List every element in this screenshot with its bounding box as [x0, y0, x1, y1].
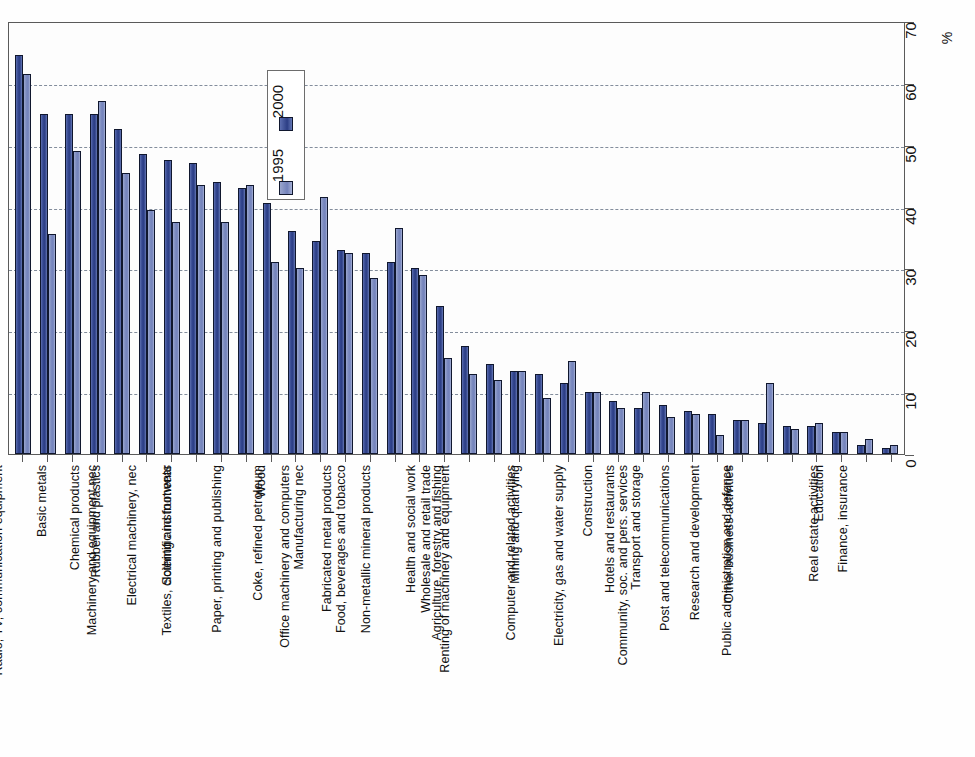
x-tick — [531, 455, 556, 463]
bar-group — [85, 23, 110, 454]
x-axis-category-label: Post and telecommunications — [659, 465, 672, 631]
x-tick — [10, 455, 35, 463]
bar-1995 — [387, 262, 395, 454]
bar-group — [36, 23, 61, 454]
x-label-slot: Electrical machinery, nec — [184, 463, 209, 753]
x-axis-category-label: Construction — [582, 465, 595, 536]
bar-2000 — [494, 380, 502, 454]
x-tick — [630, 455, 655, 463]
plot-area: 20001995 — [8, 22, 905, 455]
bar-group — [209, 23, 234, 454]
bar-group — [605, 23, 630, 454]
bar-2000 — [593, 392, 601, 454]
bar-group — [754, 23, 779, 454]
x-axis-category-label: Coke, refined petroleum — [252, 465, 265, 601]
bar-2000 — [518, 371, 526, 455]
bar-group — [407, 23, 432, 454]
bar-1995 — [832, 432, 840, 454]
x-axis-category-label: Public administration and defence — [721, 465, 734, 656]
bar-group — [234, 23, 259, 454]
bar-2000 — [98, 101, 106, 454]
bar-1995 — [90, 114, 98, 454]
x-tick — [581, 455, 606, 463]
bar-2000 — [296, 268, 304, 454]
bar-2000 — [667, 417, 675, 454]
bar-2000 — [23, 74, 31, 454]
x-axis-category-label: Textiles, clothing and footwear — [160, 465, 173, 636]
x-tick — [233, 455, 258, 463]
bar-group — [803, 23, 828, 454]
bar-group — [110, 23, 135, 454]
x-tick — [432, 455, 457, 463]
y-axis-unit-label: % — [939, 32, 955, 44]
bar-group — [531, 23, 556, 454]
x-tick — [779, 455, 804, 463]
x-axis-category-label: Computer and related activities — [505, 465, 518, 640]
bar-1995 — [15, 55, 23, 454]
legend-label: 2000 — [269, 85, 286, 118]
y-tick — [905, 455, 914, 456]
bar-1995 — [337, 250, 345, 454]
bar-1995 — [486, 364, 494, 454]
x-axis-category-label: Electrical machinery, nec — [126, 465, 139, 606]
x-tick — [481, 455, 506, 463]
bar-2000 — [815, 423, 823, 454]
bar-2000 — [320, 197, 328, 454]
bar-group — [679, 23, 704, 454]
x-tick — [209, 455, 234, 463]
x-axis-category-label: Health and social work — [405, 465, 418, 593]
x-tick — [308, 455, 333, 463]
x-tick — [804, 455, 829, 463]
chart-legend: 20001995 — [267, 70, 305, 200]
bar-1995 — [65, 114, 73, 454]
bar-group — [184, 23, 209, 454]
bar-2000 — [568, 361, 576, 454]
x-axis-category-label: Basic metals — [36, 465, 49, 537]
y-axis-tick-label: 70 — [902, 22, 919, 39]
x-tick — [35, 455, 60, 463]
bar-1995 — [362, 253, 370, 454]
bar-2000 — [370, 278, 378, 454]
y-axis: % 010203040506070 — [905, 22, 975, 462]
x-label-slot: Real estate activities — [854, 463, 879, 753]
x-tick — [184, 455, 209, 463]
bar-1995 — [40, 114, 48, 454]
bar-1995 — [114, 129, 122, 454]
x-axis-category-label: Real estate activities — [808, 465, 821, 582]
bar-2000 — [642, 392, 650, 454]
bar-1995 — [684, 411, 692, 454]
bar-1995 — [238, 188, 246, 454]
y-axis-tick-label: 60 — [902, 84, 919, 101]
legend-entry: 2000 — [268, 71, 304, 135]
bar-group — [729, 23, 754, 454]
y-axis-tick-label: 50 — [902, 146, 919, 163]
bar-group — [828, 23, 853, 454]
bar-group — [655, 23, 680, 454]
chart-root: 20001995 Motor vehiclesOther transport e… — [0, 0, 975, 757]
bar-1995 — [436, 306, 444, 454]
x-axis-category-label: Food, beverages and tobacco — [335, 465, 348, 633]
bar-1995 — [213, 182, 221, 454]
legend-entry: 1995 — [268, 135, 304, 199]
x-tick — [60, 455, 85, 463]
legend-swatch — [279, 117, 293, 131]
bar-group — [382, 23, 407, 454]
bar-2000 — [197, 185, 205, 454]
x-tick — [655, 455, 680, 463]
y-axis-tick-label: 40 — [902, 208, 919, 225]
x-axis-labels: Motor vehiclesOther transport equipmentB… — [8, 463, 905, 753]
bar-group — [877, 23, 902, 454]
x-tick — [382, 455, 407, 463]
x-tick — [258, 455, 283, 463]
legend-swatch — [279, 181, 293, 195]
bar-group — [506, 23, 531, 454]
bar-2000 — [617, 408, 625, 454]
bar-group — [333, 23, 358, 454]
y-axis-tick-label: 20 — [902, 331, 919, 348]
bar-group — [778, 23, 803, 454]
bar-group — [11, 23, 36, 454]
x-tick — [506, 455, 531, 463]
x-tick — [705, 455, 730, 463]
x-axis-category-label: Electricity, gas and water supply — [552, 465, 565, 646]
bar-2000 — [345, 253, 353, 454]
